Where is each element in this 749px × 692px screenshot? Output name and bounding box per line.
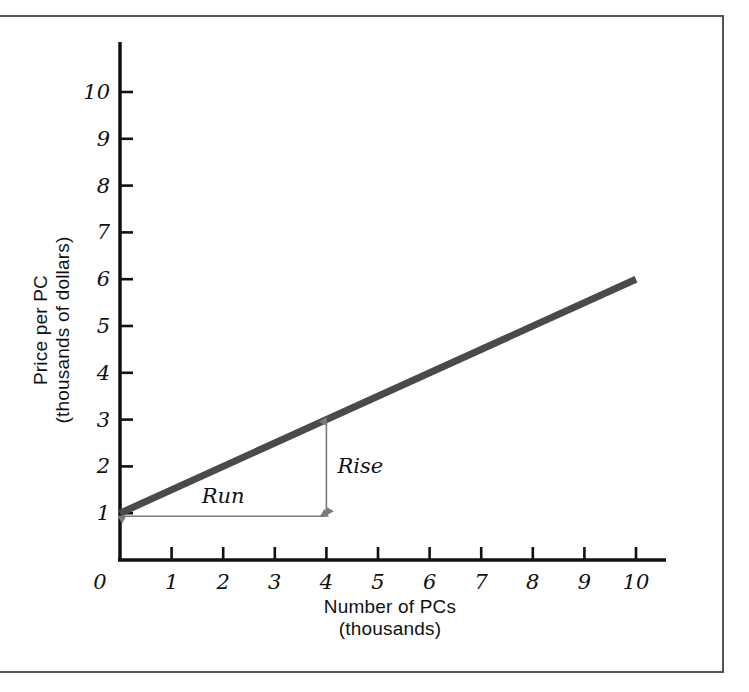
x-axis-title: Number of PCs (thousands): [324, 596, 456, 641]
x-axis-tick-label: 4: [320, 570, 333, 594]
y-axis-title-main: Price per PC: [30, 236, 52, 423]
y-axis-tick-label: 4: [97, 361, 110, 385]
y-axis-tick-marks: [120, 92, 133, 513]
x-axis-title-main: Number of PCs: [324, 596, 456, 618]
y-axis-tick-label: 3: [97, 408, 110, 432]
x-axis-tick-label: 10: [623, 570, 650, 594]
y-axis-tick-label: 5: [97, 314, 110, 338]
x-axis-tick-label: 6: [423, 570, 436, 594]
x-axis-tick-label: 5: [371, 570, 384, 594]
y-axis-title-sub: (thousands of dollars): [52, 236, 74, 423]
y-axis-tick-label: 9: [97, 127, 110, 151]
x-axis-tick-label: 9: [578, 570, 591, 594]
x-axis-tick-marks: [172, 547, 636, 560]
y-axis-tick-label: 7: [97, 220, 110, 244]
y-axis-title: Price per PC (thousands of dollars): [30, 236, 75, 423]
x-axis-tick-label: 3: [268, 570, 281, 594]
y-axis-tick-label: 6: [97, 267, 110, 291]
y-axis-tick-label: 8: [97, 174, 110, 198]
run-annotation-label: Run: [198, 484, 249, 508]
x-axis-tick-label: 2: [217, 570, 230, 594]
x-axis-tick-label: 8: [526, 570, 539, 594]
y-axis-tick-label: 10: [83, 80, 110, 104]
x-axis-tick-label: 1: [165, 570, 178, 594]
figure-panel: 12345678910 012345678910 Rise Run Number…: [0, 0, 749, 692]
x-axis-tick-label: 0: [93, 570, 106, 594]
x-axis-title-sub: (thousands): [324, 618, 456, 640]
y-axis-tick-label: 1: [97, 501, 110, 525]
rise-annotation-label: Rise: [334, 454, 388, 478]
y-axis-tick-label: 2: [97, 454, 110, 478]
x-axis-tick-label: 7: [475, 570, 488, 594]
